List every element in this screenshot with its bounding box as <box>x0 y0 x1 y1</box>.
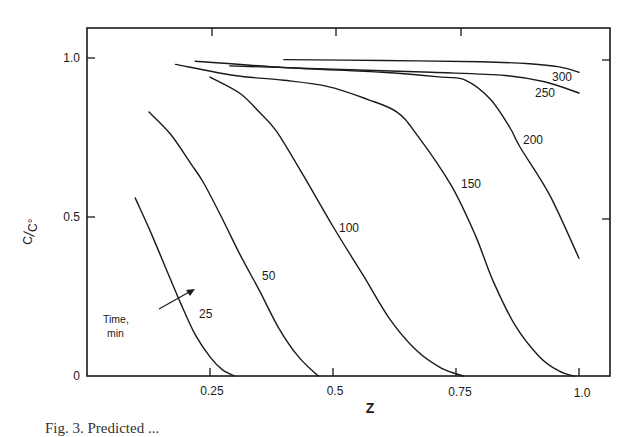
y-axis-title: C C° <box>21 218 40 244</box>
curves <box>135 60 579 376</box>
y-tick-label-0.5: 0.5 <box>63 210 80 224</box>
y-axis-title-denominator: C° <box>26 218 40 232</box>
curve-label-200: 200 <box>523 133 543 147</box>
x-axis-title: Z <box>366 400 375 416</box>
curve-200-min <box>195 61 579 258</box>
x-tick-label-0.5: 0.5 <box>327 384 344 398</box>
y-axis-title-numerator: C <box>21 236 35 245</box>
curve-label-300: 300 <box>552 70 572 84</box>
curve-150-min <box>176 64 574 376</box>
time-arrow-icon <box>159 289 195 309</box>
x-tick-label-1.0: 1.0 <box>574 386 591 400</box>
curve-label-100: 100 <box>339 221 359 235</box>
curve-50-min <box>149 112 318 376</box>
plot-frame <box>87 28 610 376</box>
time-note-line1: Time, <box>103 313 129 325</box>
curve-label-150: 150 <box>461 177 481 191</box>
curve-label-250: 250 <box>535 86 555 100</box>
curve-label-25: 25 <box>199 307 213 321</box>
figure-caption: Fig. 3. Predicted ... <box>45 420 159 437</box>
curve-100-min <box>210 77 463 376</box>
curve-label-50: 50 <box>262 269 276 283</box>
x-tick-label-0.75: 0.75 <box>448 385 472 399</box>
y-tick-label-1: 1.0 <box>63 51 80 65</box>
curve-25-min <box>135 198 234 376</box>
x-tick-label-0.25: 0.25 <box>200 384 224 398</box>
y-tick-label-0: 0 <box>73 369 80 383</box>
x-axis-ticks <box>210 28 579 376</box>
time-note-line2: min <box>107 327 124 339</box>
